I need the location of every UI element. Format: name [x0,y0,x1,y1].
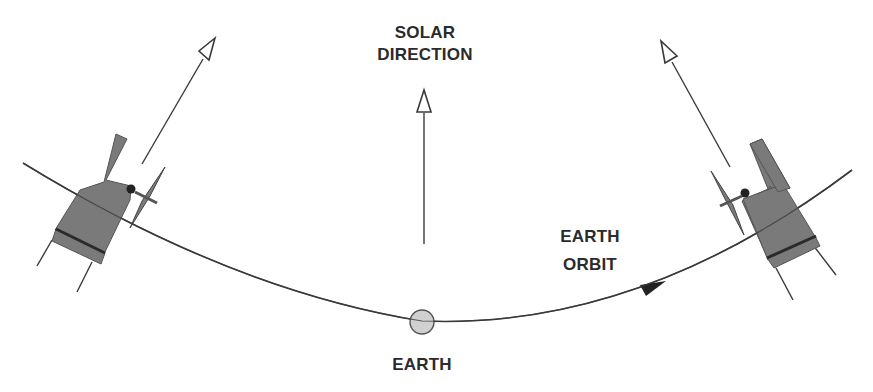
right-pointing-arrow-head-icon [661,41,677,63]
spacecraft-right [661,41,836,300]
right-pointing-arrow-shaft [672,62,730,167]
earth-orbit-label: EARTH ORBIT [540,226,640,276]
solar-direction-label-line-1: SOLAR [360,22,490,44]
left-spacecraft-dot [127,185,136,194]
earth-orbit-label-line-1: EARTH [540,226,640,248]
right-leg-2 [813,245,836,275]
solar-direction-label-line-2: DIRECTION [360,44,490,66]
earth-orbit-arc-overlay [23,163,852,321]
left-pointing-arrow-head-icon [199,38,215,60]
spacecraft-left [37,38,215,292]
orbit-direction-arrow-icon [640,281,666,296]
left-pointing-arrow-shaft [142,59,203,164]
left-leg-2 [77,262,92,292]
earth-icon [410,310,434,334]
solar-direction-arrow-head-icon [417,90,431,112]
solar-direction-label: SOLAR DIRECTION [360,22,490,66]
left-leg-1 [37,240,52,266]
earth-orbit-label-line-2: ORBIT [540,254,640,276]
earth-orbit-arc [23,163,852,321]
right-leg-1 [776,268,793,300]
earth-label: EARTH [372,354,472,376]
